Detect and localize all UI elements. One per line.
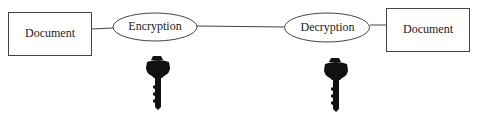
document-right-label: Document [386,22,470,37]
edge-encryption-to-decryption [197,26,284,27]
decryption-label: Decryption [285,20,370,35]
document-left-label: Document [8,26,92,41]
key-icon [324,58,348,112]
key-icon [146,56,170,110]
encryption-label: Encryption [113,19,197,34]
edge-doc-to-encryption [91,28,113,29]
diagram-canvas [0,0,497,118]
